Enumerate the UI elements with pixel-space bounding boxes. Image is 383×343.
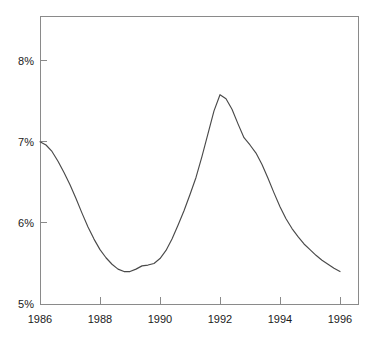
y-axis-label-8: 8% bbox=[18, 55, 34, 67]
line-chart: 198619881990199219941996 5%6%7%8% bbox=[0, 0, 383, 343]
chart-background bbox=[0, 0, 383, 343]
x-axis-label-1992: 1992 bbox=[208, 313, 232, 325]
x-axis-label-1986: 1986 bbox=[28, 313, 52, 325]
y-axis-label-6: 6% bbox=[18, 217, 34, 229]
y-axis-label-5: 5% bbox=[18, 298, 34, 310]
chart-container: 198619881990199219941996 5%6%7%8% bbox=[0, 0, 383, 343]
x-axis-label-1988: 1988 bbox=[88, 313, 112, 325]
x-axis-label-1996: 1996 bbox=[328, 313, 352, 325]
x-axis-label-1994: 1994 bbox=[268, 313, 292, 325]
x-axis-label-1990: 1990 bbox=[148, 313, 172, 325]
y-axis-label-7: 7% bbox=[18, 136, 34, 148]
